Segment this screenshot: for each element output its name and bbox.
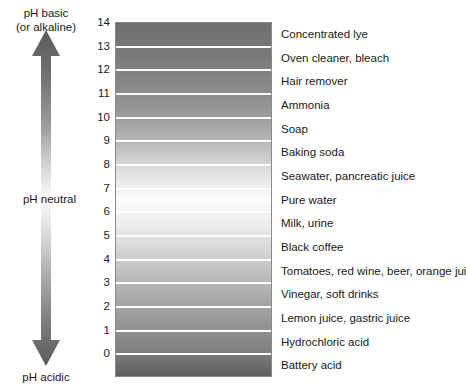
ph-tick-1: 1 [78,324,110,336]
substance-label: Tomatoes, red wine, beer, orange juice [281,265,466,277]
band-separator-line [116,46,271,48]
substance-label: Lemon juice, gastric juice [281,312,466,324]
substance-label: Milk, urine [281,217,466,229]
ph-tick-13: 13 [78,40,110,52]
ph-tick-0: 0 [78,347,110,359]
ph-neutral-label: pH neutral [0,192,76,206]
substance-label: Vinegar, soft drinks [281,288,466,300]
band-separator-line [116,211,271,213]
substance-label: Black coffee [281,241,466,253]
band-separator-line [116,259,271,261]
substance-label: Seawater, pancreatic juice [281,170,466,182]
substance-label: Hydrochloric acid [281,336,466,348]
ph-scale-tick-column: 14131211109876543210 [78,0,110,391]
substance-label: Battery acid [281,359,466,371]
ph-tick-9: 9 [78,134,110,146]
ph-tick-11: 11 [78,87,110,99]
ph-tick-7: 7 [78,182,110,194]
substance-label: Pure water [281,194,466,206]
ph-tick-14: 14 [78,16,110,28]
ph-tick-3: 3 [78,276,110,288]
substance-label: Ammonia [281,99,466,111]
band-separator-line [116,93,271,95]
substance-label: Oven cleaner, bleach [281,52,466,64]
ph-gradient-bar [115,22,272,377]
substance-label: Soap [281,123,466,135]
band-separator-line [116,140,271,142]
ph-tick-6: 6 [78,205,110,217]
ph-tick-2: 2 [78,300,110,312]
band-separator-line [116,330,271,332]
ph-tick-10: 10 [78,111,110,123]
band-separator-line [116,282,271,284]
band-separator-line [116,164,271,166]
substance-label: Hair remover [281,75,466,87]
band-separator-line [116,69,271,71]
ph-tick-4: 4 [78,253,110,265]
substance-label: Baking soda [281,146,466,158]
substance-label-column: Concentrated lyeOven cleaner, bleachHair… [281,0,466,391]
band-separator-line [116,353,271,355]
band-separator-line [116,188,271,190]
band-separator-line [116,235,271,237]
ph-tick-5: 5 [78,229,110,241]
band-separator-line [116,117,271,119]
ph-tick-12: 12 [78,63,110,75]
band-separator-line [116,306,271,308]
ph-tick-8: 8 [78,158,110,170]
substance-label: Concentrated lye [281,28,466,40]
